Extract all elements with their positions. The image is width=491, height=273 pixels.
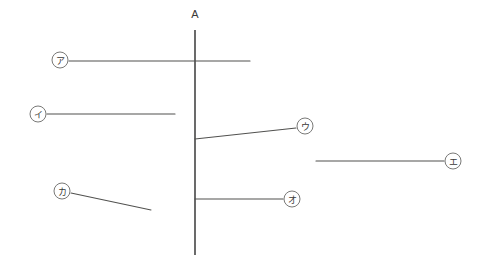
segment-a-marker-label: ア: [56, 56, 65, 66]
segment-o: オ: [195, 191, 300, 207]
segment-u-line: [195, 128, 296, 139]
segment-a: ア: [52, 52, 250, 68]
segment-ka-line: [71, 193, 151, 210]
segment-u-marker-label: ウ: [301, 122, 310, 132]
axis-label-a: A: [191, 8, 199, 20]
axis-group: A: [191, 8, 199, 255]
segment-ka-marker-label: カ: [58, 187, 67, 197]
diagram-canvas: A アイウエオカ: [0, 0, 491, 273]
segment-u: ウ: [195, 118, 313, 139]
segment-i-marker-label: イ: [34, 110, 43, 120]
segments-group: アイウエオカ: [30, 52, 461, 210]
segment-o-marker-label: オ: [288, 195, 297, 205]
segment-e-marker-label: エ: [449, 157, 458, 167]
segment-ka: カ: [54, 183, 151, 210]
segment-e: エ: [316, 153, 461, 169]
segment-i: イ: [30, 106, 175, 122]
diagram-svg: A アイウエオカ: [0, 0, 491, 273]
